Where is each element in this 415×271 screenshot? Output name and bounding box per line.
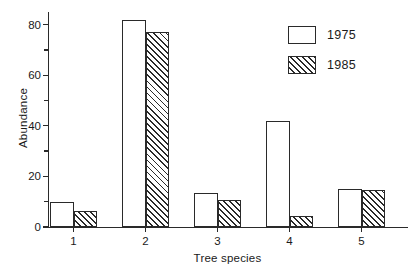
x-tick-label-1: 1	[70, 235, 76, 247]
y-tick-label-40: 40	[28, 120, 41, 132]
x-tick-label-5: 5	[358, 235, 364, 247]
bar-1975-species-2	[122, 20, 146, 227]
legend-item-1985: 1985	[288, 54, 356, 76]
bar-1975-species-5	[338, 189, 362, 227]
x-axis-title: Tree species	[40, 252, 415, 264]
legend-swatch-1985-icon	[288, 56, 316, 74]
legend-label-1985: 1985	[327, 58, 356, 72]
y-axis-title: Abundance	[17, 48, 29, 188]
bar-1975-species-4	[266, 121, 290, 227]
legend-swatch-1975-icon	[288, 26, 316, 44]
y-tick-label-0: 0	[35, 221, 41, 233]
y-tick-label-20: 20	[28, 170, 41, 182]
bar-1985-species-4	[290, 216, 314, 227]
legend-label-1975: 1975	[327, 28, 356, 42]
chart-legend: 1975 1985	[288, 24, 356, 84]
x-tick-label-4: 4	[286, 235, 292, 247]
bar-1985-species-1	[74, 211, 98, 227]
y-tick-label-80: 80	[28, 19, 41, 31]
bar-1985-species-5	[362, 190, 386, 227]
x-tick-label-2: 2	[142, 235, 148, 247]
bar-1975-species-3	[194, 193, 218, 227]
bar-1985-species-3	[218, 200, 242, 227]
x-tick-label-3: 3	[214, 235, 220, 247]
bar-chart-figure: Abundance Tree species 020406080 12345 1…	[0, 0, 415, 271]
bar-1975-species-1	[50, 202, 74, 227]
y-tick-label-60: 60	[28, 69, 41, 81]
legend-item-1975: 1975	[288, 24, 356, 46]
bar-1985-species-2	[146, 32, 170, 227]
